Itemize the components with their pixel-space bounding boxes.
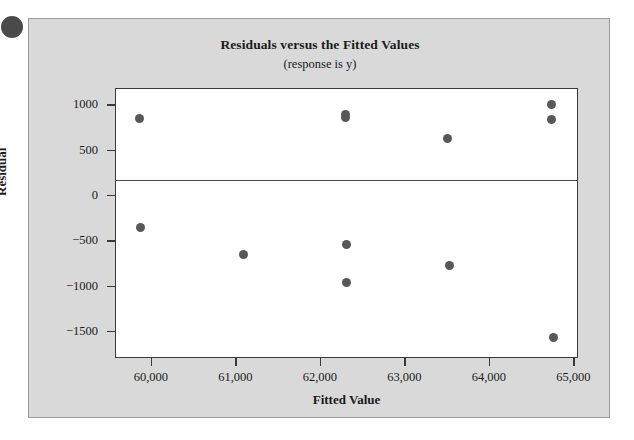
y-axis-tick bbox=[107, 150, 115, 151]
bullet-point-icon bbox=[1, 16, 23, 38]
chart-title: Residuals versus the Fitted Values bbox=[29, 37, 611, 53]
y-axis-tick bbox=[107, 104, 115, 105]
x-axis-tick bbox=[320, 358, 321, 366]
y-axis-tick bbox=[107, 331, 115, 332]
x-axis-tick-label: 61,000 bbox=[190, 370, 280, 385]
zero-reference-line bbox=[115, 180, 578, 181]
x-axis-tick bbox=[573, 358, 574, 366]
y-axis-tick-label: −500 bbox=[36, 234, 98, 247]
y-axis-tick-label: 1000 bbox=[36, 98, 98, 111]
scatter-point bbox=[547, 100, 556, 109]
scatter-point bbox=[341, 113, 350, 122]
y-axis-tick bbox=[107, 240, 115, 241]
scatter-point bbox=[135, 114, 144, 123]
chart-subtitle: (response is y) bbox=[29, 57, 611, 72]
x-axis-tick bbox=[151, 358, 152, 366]
y-axis-tick bbox=[107, 286, 115, 287]
x-axis-tick-label: 60,000 bbox=[106, 370, 196, 385]
x-axis-tick-label: 65,000 bbox=[528, 370, 618, 385]
y-axis-tick-label: −1500 bbox=[36, 325, 98, 338]
scatter-point bbox=[549, 333, 558, 342]
x-axis-tick-label: 64,000 bbox=[444, 370, 534, 385]
x-axis-tick-label: 62,000 bbox=[275, 370, 365, 385]
scatter-point bbox=[136, 223, 145, 232]
plot-area bbox=[115, 88, 578, 358]
y-axis-tick-label: −1000 bbox=[36, 280, 98, 293]
x-axis-title: Fitted Value bbox=[115, 392, 578, 408]
x-axis-tick bbox=[235, 358, 236, 366]
scatter-point bbox=[239, 250, 248, 259]
y-axis-tick bbox=[107, 195, 115, 196]
x-axis-tick bbox=[489, 358, 490, 366]
x-axis-tick bbox=[404, 358, 405, 366]
y-axis-tick-label: 0 bbox=[36, 189, 98, 202]
y-axis-tick-label: 500 bbox=[36, 144, 98, 157]
x-axis-tick-label: 63,000 bbox=[359, 370, 449, 385]
y-axis-title: Residual bbox=[0, 148, 10, 196]
